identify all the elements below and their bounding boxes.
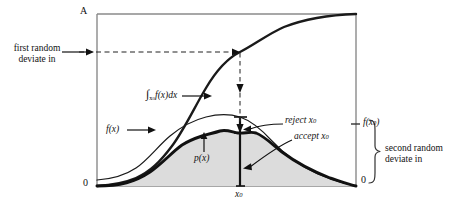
- second-random-deviate-line1: second random: [385, 143, 443, 153]
- second-random-deviate-label: second random deviate in: [385, 143, 443, 165]
- arrowhead-to-axis: [86, 49, 94, 56]
- first-random-deviate-line2: deviate in: [18, 54, 55, 64]
- integral-label: ∫x0f(x)dx: [146, 88, 177, 102]
- accept-x0-label: accept x0: [294, 131, 329, 142]
- first-random-deviate-marker: [62, 49, 240, 56]
- axis-label-A: A: [80, 5, 87, 17]
- density-px-label: p(x): [194, 153, 209, 164]
- figure-canvas: [0, 0, 473, 205]
- envelope-fx-label: f(x): [106, 124, 119, 135]
- fx0-label: f(x0): [363, 117, 379, 128]
- fx-leader: [127, 127, 156, 134]
- first-random-deviate-line1: first random: [14, 43, 61, 53]
- axis-label-origin-left: 0: [83, 177, 88, 189]
- integral-arrowhead: [204, 93, 212, 100]
- integral-leader: [182, 93, 212, 100]
- axis-label-origin-right: 0: [361, 174, 366, 186]
- rejection-method-diagram: [0, 0, 473, 205]
- arrowhead-down-mid: [236, 84, 243, 93]
- reject-x0-label: reject x0: [285, 115, 316, 126]
- fx-arrowhead: [148, 127, 156, 134]
- vertical-drop-marker: [236, 53, 243, 133]
- x0-axis-label: x0: [235, 189, 242, 200]
- right-curly-brace: [369, 120, 380, 183]
- second-random-deviate-line2: deviate in: [385, 154, 422, 164]
- first-random-deviate-label: first random deviate in: [11, 43, 63, 65]
- integral-integrand: f(x)dx: [155, 90, 177, 100]
